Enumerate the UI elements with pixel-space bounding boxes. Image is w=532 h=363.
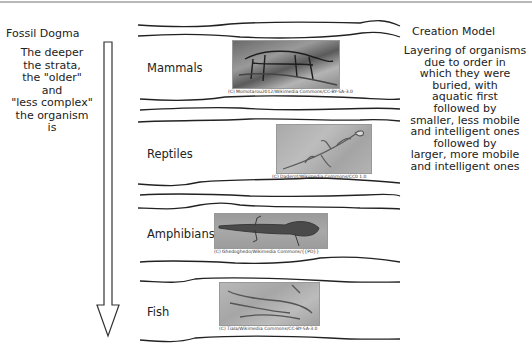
- amphibian-fossil-image: [214, 213, 328, 249]
- layer-label-reptiles: Reptiles: [147, 147, 193, 161]
- layer-label-mammals: Mammals: [147, 61, 203, 75]
- layer-label-fish: Fish: [147, 305, 169, 319]
- fish-image-caption: (C) Tiala/Wikimedia Commons/CC-BY-SA-3.0: [219, 326, 317, 331]
- fish-fossil-image: [219, 282, 320, 326]
- reptiles-image-caption: (C) Daderot/Wikimedia Commons/CC0 1.0: [272, 174, 366, 179]
- amphibians-image-caption: (C) Ghedoghedo/Wikimedia Commons/{{PD}}: [214, 249, 319, 254]
- reptile-fossil-image: [276, 124, 372, 174]
- mammal-skeleton-fossil-image: [232, 40, 340, 89]
- mammals-image-caption: (C) Momotarou2012/Wikimedia Commons/CC-B…: [228, 89, 353, 94]
- layer-label-amphibians: Amphibians: [147, 227, 215, 241]
